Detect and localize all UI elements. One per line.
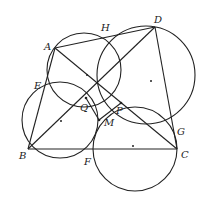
- label-P: P: [115, 105, 123, 116]
- label-G: G: [177, 126, 185, 137]
- geometry-diagram: A H D E Q P M B F C G: [0, 0, 212, 206]
- point-Q: [85, 97, 88, 100]
- segment-AC: [55, 48, 177, 149]
- segment-AB: [28, 48, 55, 149]
- point-P: [120, 102, 123, 105]
- segment-CD: [155, 27, 177, 149]
- label-D: D: [153, 14, 162, 25]
- label-M: M: [103, 117, 115, 128]
- center-dot: [132, 145, 134, 147]
- label-Q: Q: [80, 102, 88, 113]
- label-F: F: [83, 156, 92, 167]
- center-dot: [150, 80, 152, 82]
- circle-HDG: [97, 26, 195, 124]
- label-C: C: [181, 149, 189, 160]
- label-A: A: [43, 41, 51, 52]
- label-E: E: [33, 80, 42, 91]
- label-B: B: [18, 150, 26, 161]
- point-M: [98, 119, 101, 122]
- center-dot: [60, 120, 62, 122]
- center-dot: [86, 74, 88, 76]
- label-H: H: [100, 22, 110, 33]
